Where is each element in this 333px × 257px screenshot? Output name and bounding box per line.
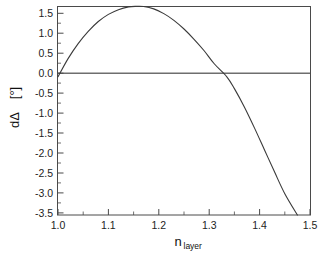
x-tick-label: 1.1	[101, 219, 116, 231]
y-tick-label: 0.5	[38, 47, 53, 59]
x-axis-title-subscript: layer	[184, 241, 203, 251]
x-tick-label: 1.5	[303, 219, 318, 231]
y-tick-label: 1.0	[38, 27, 53, 39]
x-axis-title-text: n	[174, 234, 181, 249]
x-tick-label: 1.0	[51, 219, 66, 231]
y-tick-label: -3.0	[35, 187, 53, 199]
y-axis-title-units: [°]	[7, 87, 22, 99]
y-tick-label: -2.5	[35, 167, 53, 179]
x-tick-label: 1.4	[252, 219, 267, 231]
chart-figure: 1.5 1.0 0.5 0.0 -0.5 -1.0 -1.5 -2.0 -2.5…	[0, 0, 333, 257]
y-axis-title-text: dΔ	[7, 112, 22, 128]
y-tick-label: -2.0	[35, 147, 53, 159]
y-tick-label: -3.5	[35, 207, 53, 219]
y-tick-label: 0.0	[38, 67, 53, 79]
y-tick-label: 1.5	[38, 7, 53, 19]
y-tick-label: -1.5	[35, 127, 53, 139]
y-tick-label: -0.5	[35, 87, 53, 99]
y-axis-tick-labels: 1.5 1.0 0.5 0.0 -0.5 -1.0 -1.5 -2.0 -2.5…	[35, 7, 53, 219]
x-tick-label: 1.2	[151, 219, 166, 231]
chart-canvas: 1.5 1.0 0.5 0.0 -0.5 -1.0 -1.5 -2.0 -2.5…	[0, 0, 333, 257]
y-tick-label: -1.0	[35, 107, 53, 119]
x-tick-label: 1.3	[202, 219, 217, 231]
